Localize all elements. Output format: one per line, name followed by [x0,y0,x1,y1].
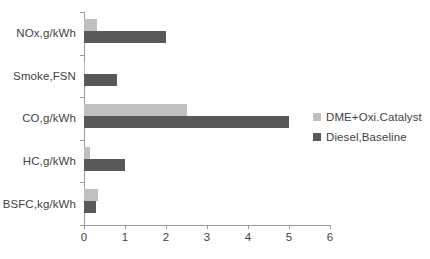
y-axis-tick [80,225,85,226]
x-axis-tick-label: 2 [151,231,181,243]
legend-label: DME+Oxi.Catalyst [326,111,422,123]
bar-dme-oxi-catalyst [84,19,97,31]
bar-diesel-baseline [84,201,96,213]
bar-chart: 0123456 DME+Oxi.CatalystDiesel,Baseline … [0,0,430,259]
legend-item[interactable]: Diesel,Baseline [313,127,430,147]
bar-diesel-baseline [84,74,117,86]
chart-category-row: CO,g/kWh [84,97,330,140]
x-axis-tick [248,225,249,229]
legend-item[interactable]: DME+Oxi.Catalyst [313,107,430,127]
x-axis-tick-label: 3 [192,231,222,243]
x-axis-tick-label: 1 [110,231,140,243]
y-axis-category-label: BSFC,kg/kWh [3,198,76,210]
x-axis-tick-label: 0 [69,231,99,243]
bar-dme-oxi-catalyst [84,62,85,74]
x-axis-tick [289,225,290,229]
bar-dme-oxi-catalyst [84,104,187,116]
legend-label: Diesel,Baseline [326,131,407,143]
x-axis-tick [207,225,208,229]
y-axis-category-label: NOx,g/kWh [16,27,76,39]
x-axis-tick [125,225,126,229]
chart-category-row: HC,g/kWh [84,140,330,183]
bar-dme-oxi-catalyst [84,189,98,201]
bar-dme-oxi-catalyst [84,147,90,159]
x-axis-tick-label: 5 [274,231,304,243]
bar-diesel-baseline [84,116,289,128]
chart-legend: DME+Oxi.CatalystDiesel,Baseline [313,107,430,147]
y-axis-category-label: Smoke,FSN [13,70,76,82]
x-axis-tick-label: 6 [315,231,345,243]
y-axis-category-label: HC,g/kWh [23,155,76,167]
x-axis-tick [166,225,167,229]
x-axis-tick-label: 4 [233,231,263,243]
x-axis-tick [330,225,331,229]
chart-category-row: NOx,g/kWh [84,12,330,55]
chart-category-row: BSFC,kg/kWh [84,182,330,225]
chart-category-row: Smoke,FSN [84,55,330,98]
bar-diesel-baseline [84,31,166,43]
y-axis-category-label: CO,g/kWh [22,112,76,124]
bar-diesel-baseline [84,159,125,171]
